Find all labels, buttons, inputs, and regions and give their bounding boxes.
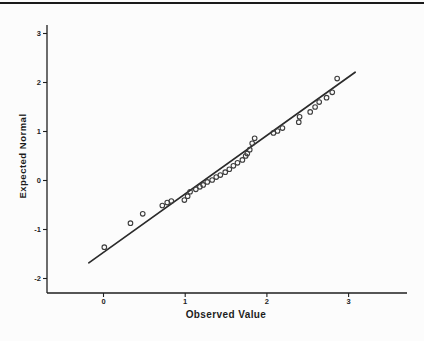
y-tick-label: 3 (37, 29, 41, 38)
x-axis-title: Observed Value (186, 309, 267, 320)
data-point (235, 161, 240, 166)
y-tick-label: -2 (34, 274, 41, 283)
data-point (160, 203, 165, 208)
data-point (205, 180, 210, 185)
data-point (308, 110, 313, 115)
data-point (335, 76, 340, 81)
data-point (280, 126, 285, 131)
data-point (317, 100, 322, 105)
data-point (102, 245, 107, 250)
data-point (296, 120, 301, 125)
data-point (297, 115, 302, 120)
y-tick-label: 0 (37, 176, 41, 185)
data-point (275, 129, 280, 134)
data-point (218, 173, 223, 178)
x-tick-label: 0 (101, 297, 105, 306)
data-point (128, 221, 133, 226)
y-axis-title: Expected Normal (17, 113, 28, 198)
y-tick-label: 1 (37, 127, 41, 136)
fit-line (89, 72, 355, 263)
qq-plot-chart: 3210-1-20123 Expected Normal Observed Va… (0, 0, 424, 341)
qq-plot-canvas: 3210-1-20123 (0, 0, 424, 341)
data-point (169, 199, 174, 204)
data-point (252, 136, 257, 141)
data-point (227, 167, 232, 172)
x-tick-label: 1 (183, 297, 187, 306)
data-point (330, 90, 335, 95)
data-point (140, 212, 145, 217)
x-tick-label: 3 (347, 297, 351, 306)
x-tick-label: 2 (265, 297, 269, 306)
data-point (313, 105, 318, 110)
scanned-page: 3210-1-20123 Expected Normal Observed Va… (0, 0, 424, 341)
data-point (185, 194, 190, 199)
data-point (324, 95, 329, 100)
y-tick-label: -1 (34, 225, 41, 234)
y-tick-label: 2 (37, 78, 41, 87)
